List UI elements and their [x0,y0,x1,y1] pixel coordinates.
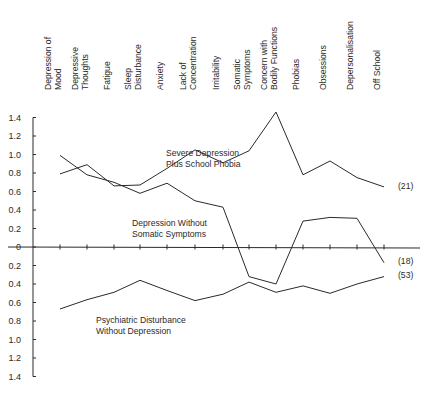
sample-size-label: (53) [398,270,413,280]
series-labels: Severe DepressionPlus School PhobiaDepre… [96,148,241,336]
category-label-line: Anxiety [155,61,165,90]
y-tick-label: 0.8 [8,168,21,178]
category-label-line: Off School [372,50,382,90]
series-label: Plus School Phobia [166,159,241,169]
y-tick-label: 0.8 [8,316,21,326]
zero-line [8,247,420,248]
category-label-line: Concentration [188,36,198,90]
category-label: Phobias [291,59,301,90]
y-tick-label: 0.6 [8,187,21,197]
category-label: Fatigue [102,61,112,90]
sample-size-label: (21) [398,181,413,191]
y-tick-label: 1.2 [8,131,21,141]
category-label: Lack ofConcentration [178,36,198,90]
series-label: Psychiatric Disturbance [96,315,186,325]
series-label: Somatic Symptoms [132,229,206,239]
category-label: Irritability [211,55,221,90]
sample-size-label: (18) [398,256,413,266]
category-label-line: Depersonalisation [345,21,355,90]
y-tick-label: 1.0 [8,150,21,160]
category-label-line: Lack of [178,62,188,90]
y-tick-label: 1.4 [8,372,21,382]
category-label-line: Obsessions [318,45,328,90]
category-label: SleepDisturbance [123,44,143,90]
category-label: Anxiety [155,61,165,90]
series-line-2 [60,155,384,284]
category-label-line: Concern with [259,40,269,90]
y-tick-label: 0.6 [8,298,21,308]
category-label: Depression ofMood [43,36,63,90]
category-label: DepressiveThoughts [70,47,90,90]
category-label-line: Phobias [291,59,301,90]
category-label-line: Depression of [43,36,53,90]
category-label: Off School [372,50,382,90]
category-labels: Depression ofMoodDepressiveThoughtsFatig… [43,21,382,90]
category-label-line: Irritability [211,55,221,90]
y-tick-label: 0.2 [8,224,21,234]
category-label-line: Thoughts [80,54,90,90]
y-tick-label: 1.0 [8,335,21,345]
category-label: SomaticSymptoms [232,49,252,90]
y-tick-label: 0.4 [8,205,21,215]
category-label: Obsessions [318,45,328,90]
series-label: Depression Without [132,218,208,228]
category-label: Depersonalisation [345,21,355,90]
series-lines [60,112,384,309]
y-tick-label: 0.2 [8,261,21,271]
category-label-line: Symptoms [242,49,252,90]
category-label-line: Sleep [123,68,133,90]
series-line-3 [60,277,384,309]
category-label-line: Somatic [232,58,242,90]
category-label-line: Depressive [70,47,80,90]
category-label-line: Disturbance [133,44,143,90]
category-label-line: Mood [53,68,63,90]
y-tick-label: 1.4 [8,113,21,123]
y-tick-label: 0.4 [8,279,21,289]
series-label: Without Depression [96,326,171,336]
line-chart: Depression ofMoodDepressiveThoughtsFatig… [0,0,428,393]
sample-size-labels: (21)(18)(53) [398,181,413,280]
category-label: Concern withBodily Functions [259,27,279,90]
y-tick-label: 1.2 [8,353,21,363]
category-label-line: Bodily Functions [269,27,279,90]
series-label: Severe Depression [166,148,239,158]
category-label-line: Fatigue [102,61,112,90]
zero-baseline-axis [8,245,420,250]
